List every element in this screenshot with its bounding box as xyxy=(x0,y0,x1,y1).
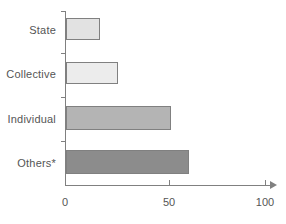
category-label-others: Others* xyxy=(0,157,56,169)
bar-state xyxy=(66,18,100,40)
x-axis-tick-100 xyxy=(265,180,266,185)
y-axis-tick-3 xyxy=(61,141,66,142)
y-axis-top-cap xyxy=(61,11,66,12)
x-axis-line xyxy=(65,185,272,186)
y-axis-tick-1 xyxy=(61,53,66,54)
category-label-individual: Individual xyxy=(0,113,56,125)
x-axis-label-0: 0 xyxy=(45,196,85,208)
x-axis-label-100: 100 xyxy=(245,196,285,208)
x-axis-tick-50 xyxy=(169,180,170,185)
category-label-state: State xyxy=(0,24,56,36)
y-axis-tick-2 xyxy=(61,97,66,98)
x-axis-tick-0 xyxy=(65,180,66,185)
category-label-collective: Collective xyxy=(0,68,56,80)
bar-individual xyxy=(66,106,171,130)
x-axis-arrow-icon xyxy=(270,181,277,189)
bar-chart: 0 50 100 State Collective Individual Oth… xyxy=(0,0,286,224)
x-axis-label-50: 50 xyxy=(149,196,189,208)
bar-others xyxy=(66,150,189,174)
bar-collective xyxy=(66,62,118,84)
